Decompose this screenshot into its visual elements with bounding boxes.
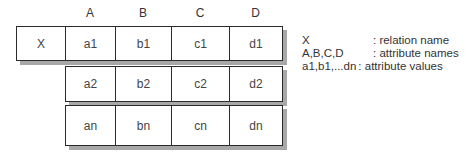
header-b: B (115, 6, 171, 20)
legend-key: a1,b1,...dn (302, 60, 356, 73)
cell-b1: b1 (116, 27, 172, 60)
cell-d2: d2 (230, 67, 282, 101)
cell-a2: a2 (66, 67, 116, 101)
legend-key: X (302, 34, 373, 47)
legend-item: A,B,C,D : attribute names (302, 47, 459, 60)
cell-cn: cn (172, 106, 230, 145)
tuple-row-2: a2 b2 c2 d2 (65, 66, 283, 102)
tuple-row-n: an bn cn dn (65, 105, 283, 146)
legend-desc: : relation name (373, 34, 449, 47)
header-d: D (229, 6, 282, 20)
legend-item: a1,b1,...dn : attribute values (302, 60, 459, 73)
legend: X : relation name A,B,C,D : attribute na… (302, 34, 459, 73)
cell-dn: dn (230, 106, 282, 145)
tuple-row-1: X a1 b1 c1 d1 (16, 26, 283, 61)
cell-b2: b2 (116, 67, 172, 101)
cell-an: an (66, 106, 116, 145)
legend-desc: : attribute values (358, 60, 442, 73)
cell-c1: c1 (172, 27, 230, 60)
legend-item: X : relation name (302, 34, 459, 47)
legend-desc: : attribute names (373, 47, 459, 60)
cell-bn: bn (116, 106, 172, 145)
cell-a1: a1 (66, 27, 116, 60)
cell-d1: d1 (230, 27, 282, 60)
relation-name-cell: X (17, 27, 66, 60)
legend-key: A,B,C,D (302, 47, 373, 60)
header-c: C (171, 6, 229, 20)
cell-c2: c2 (172, 67, 230, 101)
header-a: A (65, 6, 115, 20)
